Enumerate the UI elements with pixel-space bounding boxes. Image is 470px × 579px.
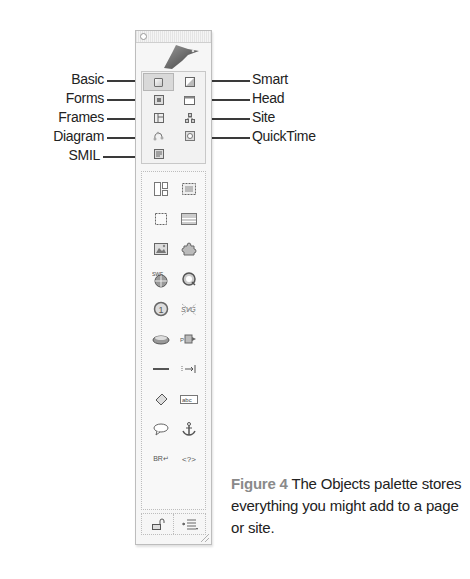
layout-grid-icon[interactable] bbox=[150, 178, 172, 200]
eraser-icon[interactable] bbox=[150, 388, 172, 410]
quicktime-tab-icon bbox=[185, 131, 195, 141]
callout-forms: Forms bbox=[66, 91, 104, 105]
svg-text:1: 1 bbox=[159, 305, 164, 315]
comment-icon[interactable] bbox=[150, 418, 172, 440]
callout-head-label: Head bbox=[252, 90, 284, 106]
palette-category-tabs bbox=[141, 71, 206, 164]
callout-frames-label: Frames bbox=[58, 109, 104, 125]
callout-quicktime-label: QuickTime bbox=[252, 128, 316, 144]
script-tag-label: <?> bbox=[182, 455, 196, 464]
lock-icon bbox=[151, 518, 165, 530]
box-icon[interactable] bbox=[150, 208, 172, 230]
figure-label: Figure 4 bbox=[231, 475, 288, 492]
image-icon[interactable] bbox=[150, 238, 172, 260]
soap-icon[interactable] bbox=[150, 328, 172, 350]
tab-smart[interactable] bbox=[174, 73, 205, 91]
lock-toggle-button[interactable] bbox=[142, 514, 174, 534]
text-field-icon[interactable]: abc bbox=[178, 388, 200, 410]
anchor-icon[interactable] bbox=[178, 418, 200, 440]
callout-smart: Smart bbox=[252, 72, 288, 86]
counter-icon[interactable]: 1 bbox=[150, 298, 172, 320]
diagram-tab-icon bbox=[153, 131, 164, 141]
frames-tab-icon bbox=[154, 113, 164, 123]
figure-caption: Figure 4 The Objects palette stores ever… bbox=[231, 473, 469, 539]
smil-tab-icon bbox=[154, 149, 164, 159]
callout-site: Site bbox=[252, 110, 275, 124]
close-icon[interactable] bbox=[140, 33, 147, 40]
callout-diagram-label: Diagram bbox=[53, 128, 104, 144]
tab-basic[interactable] bbox=[143, 73, 174, 91]
line-break-icon[interactable]: BR↵ bbox=[150, 448, 172, 470]
callout-head: Head bbox=[252, 91, 284, 105]
quicktime-icon[interactable] bbox=[178, 268, 200, 290]
palette-titlebar[interactable] bbox=[136, 31, 211, 43]
resize-grip-icon[interactable] bbox=[201, 534, 209, 542]
svg-text:SWF: SWF bbox=[152, 271, 163, 277]
objects-grid: SWF 1 SVG P abc bbox=[141, 171, 206, 510]
tab-diagram[interactable] bbox=[143, 127, 174, 145]
table-icon[interactable] bbox=[178, 178, 200, 200]
callout-site-label: Site bbox=[252, 109, 275, 125]
callout-smart-label: Smart bbox=[252, 71, 288, 87]
palette-bottom-bar bbox=[141, 513, 206, 535]
tab-smil[interactable] bbox=[143, 145, 174, 163]
script-tag-icon[interactable]: <?> bbox=[178, 448, 200, 470]
smart-tab-icon bbox=[185, 77, 195, 87]
svg-icon[interactable]: SVG bbox=[178, 298, 200, 320]
callout-smil-label: SMIL bbox=[69, 147, 100, 163]
palette-menu-button[interactable] bbox=[174, 514, 205, 534]
action-icon[interactable]: P bbox=[178, 328, 200, 350]
forms-tab-icon bbox=[154, 95, 164, 105]
tab-marker-icon[interactable] bbox=[178, 358, 200, 380]
callout-basic: Basic bbox=[71, 72, 104, 86]
horizontal-rule-icon[interactable] bbox=[150, 358, 172, 380]
basic-tab-icon bbox=[154, 78, 163, 87]
swf-icon[interactable]: SWF bbox=[150, 268, 172, 290]
callout-diagram: Diagram bbox=[53, 129, 104, 143]
tab-head[interactable] bbox=[174, 91, 205, 109]
callout-frames: Frames bbox=[58, 110, 104, 124]
callout-smil: SMIL bbox=[69, 148, 100, 162]
head-tab-icon bbox=[184, 95, 195, 105]
menu-list-icon bbox=[181, 518, 199, 530]
macromedia-logo-icon bbox=[136, 43, 211, 69]
site-tab-icon bbox=[185, 113, 195, 123]
svg-text:P: P bbox=[180, 337, 184, 343]
layout-rows-icon[interactable] bbox=[178, 208, 200, 230]
line-break-label: BR↵ bbox=[153, 455, 169, 463]
tab-quicktime[interactable] bbox=[174, 127, 205, 145]
objects-palette: SWF 1 SVG P abc bbox=[135, 30, 212, 545]
callout-basic-label: Basic bbox=[71, 71, 104, 87]
callout-forms-label: Forms bbox=[66, 90, 104, 106]
callout-quicktime: QuickTime bbox=[252, 129, 316, 143]
plugin-puzzle-icon[interactable] bbox=[178, 238, 200, 260]
tab-site[interactable] bbox=[174, 109, 205, 127]
svg-text:abc: abc bbox=[182, 397, 192, 403]
tab-frames[interactable] bbox=[143, 109, 174, 127]
tab-forms[interactable] bbox=[143, 91, 174, 109]
